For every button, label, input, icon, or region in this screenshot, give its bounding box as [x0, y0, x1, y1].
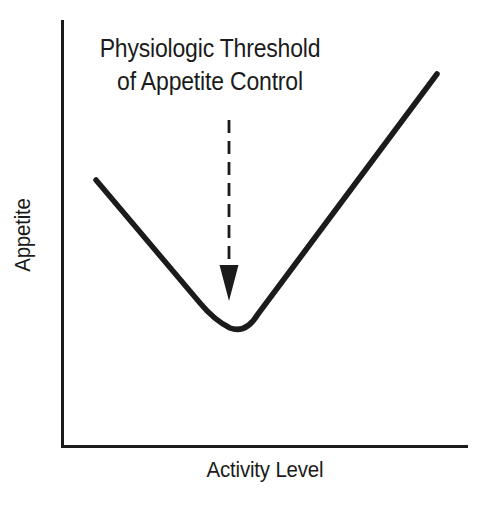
annotation-arrowhead — [220, 265, 239, 301]
y-axis-label: Appetite — [10, 198, 36, 272]
chart-canvas — [0, 0, 490, 507]
x-axis-label: Activity Level — [76, 457, 454, 483]
y-axis-label-container: Appetite — [0, 160, 46, 310]
appetite-curve — [96, 74, 437, 329]
appetite-activity-chart: Physiologic Threshold of Appetite Contro… — [0, 0, 490, 507]
